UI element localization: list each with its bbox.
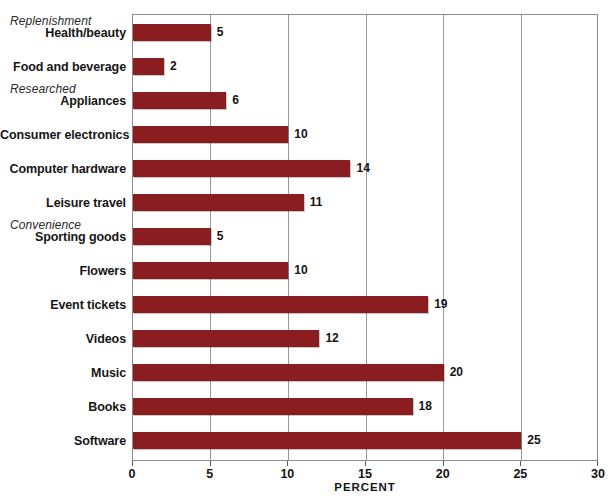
- bar: [133, 126, 288, 143]
- x-tick-label: 15: [358, 467, 372, 481]
- x-tick-mark: [287, 461, 288, 466]
- bar-value-label: 19: [434, 296, 447, 313]
- category-label: Computer hardware: [0, 152, 126, 186]
- bar: [133, 24, 211, 41]
- bar-row: Health/beauty5: [0, 16, 610, 50]
- bar-row: Music20: [0, 356, 610, 390]
- x-axis: 051015202530: [132, 461, 598, 499]
- category-label: Software: [0, 424, 126, 458]
- x-tick-mark: [365, 461, 366, 466]
- bar-container: 2: [133, 50, 610, 84]
- x-axis-title: PERCENT: [132, 481, 598, 493]
- bar-row: Software25: [0, 424, 610, 458]
- bar-value-label: 5: [217, 24, 224, 41]
- group-header: Convenience: [10, 218, 81, 232]
- x-tick-label: 30: [591, 467, 605, 481]
- bar-container: 25: [133, 424, 610, 458]
- bar: [133, 92, 226, 109]
- bar-value-label: 2: [170, 58, 177, 75]
- bar: [133, 194, 304, 211]
- bar-container: 14: [133, 152, 610, 186]
- bar-container: 20: [133, 356, 610, 390]
- bar: [133, 330, 319, 347]
- bar-container: 5: [133, 16, 610, 50]
- category-label: Consumer electronics: [0, 118, 126, 152]
- x-tick-mark: [443, 461, 444, 466]
- bar-container: 10: [133, 118, 610, 152]
- x-tick-label: 0: [129, 467, 136, 481]
- x-tick-label: 5: [206, 467, 213, 481]
- bar-value-label: 12: [325, 330, 338, 347]
- bar-value-label: 20: [450, 364, 463, 381]
- x-tick-label: 25: [513, 467, 527, 481]
- bar-row: Appliances6: [0, 84, 610, 118]
- bar-row: Books18: [0, 390, 610, 424]
- bar-value-label: 18: [419, 398, 432, 415]
- bar: [133, 58, 164, 75]
- bar-row: Food and beverage2: [0, 50, 610, 84]
- bar-container: 6: [133, 84, 610, 118]
- bar-container: 10: [133, 254, 610, 288]
- category-label: Event tickets: [0, 288, 126, 322]
- bar-value-label: 11: [310, 194, 323, 211]
- x-tick-mark: [132, 461, 133, 466]
- x-tick-mark: [520, 461, 521, 466]
- bar-chart-figure: Health/beauty5Food and beverage2Applianc…: [0, 0, 610, 499]
- category-label: Leisure travel: [0, 186, 126, 220]
- bar-row: Videos12: [0, 322, 610, 356]
- bar-container: 5: [133, 220, 610, 254]
- bar: [133, 228, 211, 245]
- bar-row: Sporting goods5: [0, 220, 610, 254]
- bar-value-label: 5: [217, 228, 224, 245]
- category-label: Videos: [0, 322, 126, 356]
- group-header: Researched: [10, 82, 76, 96]
- bar-container: 11: [133, 186, 610, 220]
- category-label: Books: [0, 390, 126, 424]
- category-label: Music: [0, 356, 126, 390]
- x-tick-label: 20: [436, 467, 450, 481]
- x-tick-mark: [597, 461, 598, 466]
- x-tick-mark: [210, 461, 211, 466]
- bar-value-label: 14: [356, 160, 369, 177]
- x-tick-label: 10: [280, 467, 294, 481]
- category-label: Flowers: [0, 254, 126, 288]
- bar: [133, 262, 288, 279]
- bar: [133, 432, 521, 449]
- group-header: Replenishment: [10, 14, 91, 28]
- bar: [133, 296, 428, 313]
- bar-value-label: 10: [294, 126, 307, 143]
- bar-container: 19: [133, 288, 610, 322]
- bar-container: 18: [133, 390, 610, 424]
- bar: [133, 160, 350, 177]
- bar: [133, 398, 413, 415]
- bar-row: Flowers10: [0, 254, 610, 288]
- bar-value-label: 6: [232, 92, 239, 109]
- bar-row: Consumer electronics10: [0, 118, 610, 152]
- category-label: Food and beverage: [0, 50, 126, 84]
- bar-container: 12: [133, 322, 610, 356]
- bar-value-label: 25: [527, 432, 540, 449]
- bar-value-label: 10: [294, 262, 307, 279]
- bar-row: Computer hardware14: [0, 152, 610, 186]
- bar-row: Leisure travel11: [0, 186, 610, 220]
- bar-row: Event tickets19: [0, 288, 610, 322]
- bar: [133, 364, 444, 381]
